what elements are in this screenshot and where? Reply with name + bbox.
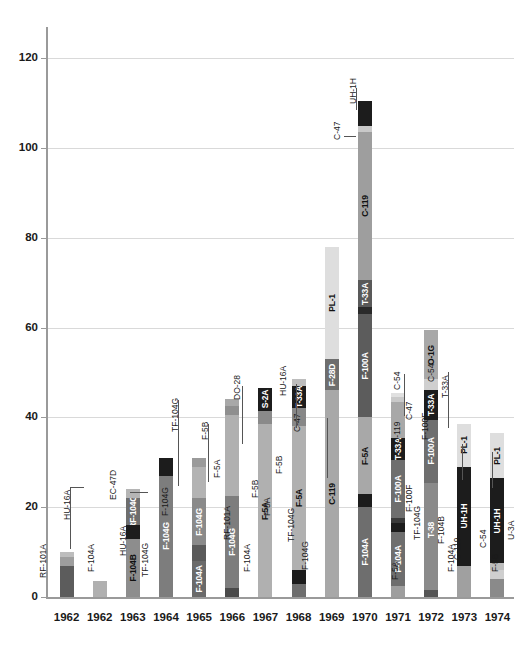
segment-label: T-38 <box>426 522 436 538</box>
bar-1967-6[interactable]: F-5AS-2A <box>258 388 272 597</box>
bar-segment-F-104G[interactable] <box>292 584 306 597</box>
y-tick-120 <box>41 58 48 59</box>
bar-segment-F-104A[interactable]: F-104A <box>358 507 372 597</box>
callout-label-UH-1H: UH-1H <box>348 104 374 114</box>
bar-segment-F-104B[interactable] <box>424 577 438 590</box>
callout-leader-line <box>404 374 405 416</box>
segment-label: T-33A <box>360 283 370 305</box>
bar-segment-F-28D[interactable]: F-28D <box>325 359 339 390</box>
bar-segment-HU-16A[interactable] <box>93 581 107 597</box>
stacked-bar-chart: 020406080100120 F-104BRF-104GF-104GF-104… <box>0 0 520 661</box>
bar-segment-F-104A[interactable] <box>225 588 239 597</box>
bar-segment-F-5A[interactable] <box>192 467 206 498</box>
bar-segment-T-33A[interactable]: T-33A <box>358 280 372 307</box>
bar-segment-HU-16A[interactable] <box>60 552 74 556</box>
segment-label: O-1G <box>426 345 436 365</box>
y-tick-0 <box>41 597 48 598</box>
segment-label: F-100A <box>360 352 370 379</box>
segment-label: C-119 <box>360 196 370 218</box>
callout-label-F-104A: F-104A <box>242 572 270 582</box>
segment-label: F-28D <box>327 363 337 386</box>
callout-label-EC-47D: EC-47D <box>108 500 138 510</box>
bar-segment-EC-47D[interactable] <box>126 489 140 498</box>
callout-leader-line <box>448 372 449 428</box>
callout-leader-line <box>296 384 297 428</box>
segment-label: PL-1 <box>492 447 502 465</box>
callout-leader-line <box>242 386 243 444</box>
y-axis-label: 60 <box>0 322 38 334</box>
callout-label-C-54: C-54 <box>392 390 410 400</box>
y-axis-label: 80 <box>0 232 38 244</box>
callout-leader-line <box>130 492 148 493</box>
bar-segment-PL-1[interactable]: PL-1 <box>457 424 471 467</box>
bar-segment-PL-1[interactable]: PL-1 <box>325 247 339 359</box>
bar-segment-RF-101A[interactable] <box>60 557 74 566</box>
bar-1962-0[interactable] <box>60 552 74 597</box>
segment-label: F-104A <box>360 539 370 566</box>
bar-segment-TF-104G[interactable] <box>391 523 405 532</box>
bar-segment-F-5A[interactable]: F-5A <box>358 417 372 493</box>
callout-label-U-3A: U-3A <box>506 540 520 550</box>
bar-1966-5[interactable]: F-104G <box>225 399 239 597</box>
bar-segment-F-104A[interactable]: F-104A <box>192 561 206 597</box>
callout-leader-line <box>208 424 209 482</box>
bar-segment-F-5B[interactable] <box>192 458 206 467</box>
callout-label-F-104G: F-104G <box>300 570 329 580</box>
y-axis-line <box>46 27 48 597</box>
bar-segment-C-47[interactable] <box>292 379 306 386</box>
bar-segment-TF-104G[interactable] <box>358 494 372 507</box>
callout-label-F-104G: F-104G <box>160 516 189 526</box>
segment-label: S-2A <box>260 390 270 409</box>
callout-label-F-5A: F-5A <box>212 478 230 488</box>
gridline-60 <box>48 328 514 329</box>
callout-leader-line <box>70 487 84 488</box>
segment-label: F-104G <box>161 523 171 551</box>
y-tick-80 <box>41 238 48 239</box>
bar-segment-TF-104G[interactable] <box>159 458 173 476</box>
segment-label: F-104A <box>194 565 204 592</box>
callout-label-F-5B: F-5B <box>274 474 292 484</box>
y-tick-60 <box>41 328 48 329</box>
segment-label: UH-1H <box>492 508 502 533</box>
callout-label-F-5B: F-5B <box>490 572 508 582</box>
callout-leader-line <box>70 487 71 549</box>
x-axis-line <box>46 597 514 599</box>
bar-segment-RF-101A[interactable] <box>192 545 206 561</box>
segment-label: PL-1 <box>459 437 469 455</box>
y-axis-label: 100 <box>0 142 38 154</box>
callout-label-RF-101A: RF-101A <box>38 578 72 588</box>
segment-label: F-104G <box>194 508 204 536</box>
callout-leader-line <box>344 136 356 137</box>
bar-segment-F-5B[interactable] <box>258 411 272 424</box>
y-tick-40 <box>41 417 48 418</box>
bar-segment-F-100A[interactable]: F-100A <box>391 460 405 518</box>
bar-segment-F-104A[interactable] <box>424 590 438 597</box>
callout-leader-line <box>462 444 463 480</box>
callout-label-F-104A: F-104A <box>86 572 114 582</box>
gridline-40 <box>48 417 514 418</box>
y-axis-label: 40 <box>0 411 38 423</box>
bar-segment-C-119[interactable]: C-119 <box>358 132 372 280</box>
callout-label-T-33A: T-33A <box>440 398 463 408</box>
callout-leader-line <box>492 452 493 488</box>
bar-segment-F-104G[interactable]: F-104G <box>192 498 206 545</box>
segment-label: C-119 <box>327 483 337 505</box>
bar-1962-1[interactable] <box>93 581 107 597</box>
gridline-80 <box>48 238 514 239</box>
bar-segment-F-100A[interactable]: F-100A <box>358 314 372 417</box>
callout-label-TF-104G: TF-104G <box>140 577 174 587</box>
callout-label-F-5A: F-5A <box>262 516 280 526</box>
segment-label: UH-1H <box>459 504 469 529</box>
callout-label-TF-104G: TF-104G <box>170 432 204 442</box>
bar-1970-9[interactable]: F-104AF-5AF-100AT-33AC-119 <box>358 101 372 597</box>
y-axis-label: 0 <box>0 591 38 603</box>
bar-segment-F-100F[interactable] <box>391 518 405 522</box>
bar-segment-S-2A[interactable]: S-2A <box>258 388 272 410</box>
bar-segment-F-5B[interactable] <box>358 307 372 314</box>
callout-label-HU-16A: HU-16A <box>62 520 92 530</box>
gridline-100 <box>48 148 514 149</box>
y-tick-20 <box>41 507 48 508</box>
y-axis-label: 120 <box>0 52 38 64</box>
bar-1965-4[interactable]: F-104AF-104G <box>192 458 206 597</box>
bar-segment-C-47[interactable] <box>358 126 372 133</box>
